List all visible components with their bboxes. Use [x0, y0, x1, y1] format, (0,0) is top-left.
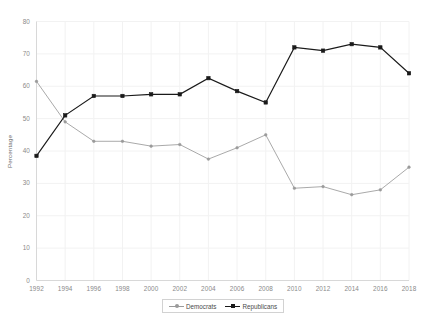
series-line-republicans: [37, 44, 410, 156]
data-point-republicans-1998: [121, 94, 124, 97]
chart-container: Percentage 01020304050607080 19921994199…: [0, 0, 421, 325]
data-point-republicans-2018: [407, 72, 410, 75]
data-point-democrats-1994: [64, 121, 67, 124]
data-point-democrats-2014: [350, 193, 353, 196]
data-point-democrats-2002: [178, 143, 181, 146]
legend-swatch-icon: [225, 303, 240, 309]
data-point-republicans-2004: [207, 76, 210, 79]
data-point-democrats-2010: [293, 187, 296, 190]
data-point-republicans-2014: [350, 42, 353, 45]
y-tick-label: 20: [8, 212, 30, 219]
data-point-democrats-2008: [264, 133, 267, 136]
data-point-republicans-2008: [264, 101, 267, 104]
y-tick-label: 40: [8, 147, 30, 154]
chart-legend: DemocratsRepublicans: [162, 299, 284, 313]
data-point-democrats-1996: [92, 140, 95, 143]
data-point-democrats-2004: [207, 158, 210, 161]
data-point-democrats-2000: [150, 145, 153, 148]
data-point-republicans-1994: [63, 114, 66, 117]
chart-plot-area: [0, 0, 421, 325]
data-point-democrats-2018: [408, 166, 411, 169]
legend-label: Republicans: [242, 303, 277, 310]
y-tick-label: 50: [8, 115, 30, 122]
data-point-republicans-2012: [321, 49, 324, 52]
x-tick-label: 2018: [392, 285, 421, 292]
data-point-democrats-1998: [121, 140, 124, 143]
data-point-democrats-2016: [379, 189, 382, 192]
y-tick-label: 80: [8, 18, 30, 25]
data-point-republicans-2006: [235, 89, 238, 92]
data-point-republicans-1992: [35, 154, 38, 157]
data-point-republicans-2002: [178, 93, 181, 96]
data-point-republicans-2000: [149, 93, 152, 96]
legend-label: Democrats: [186, 303, 216, 310]
legend-item-democrats[interactable]: Democrats: [169, 303, 216, 310]
data-point-republicans-2010: [293, 46, 296, 49]
y-tick-label: 60: [8, 82, 30, 89]
data-point-democrats-2012: [322, 185, 325, 188]
legend-item-republicans[interactable]: Republicans: [225, 303, 277, 310]
data-point-democrats-1992: [35, 80, 38, 83]
data-point-republicans-1996: [92, 94, 95, 97]
y-tick-label: 70: [8, 50, 30, 57]
legend-swatch-icon: [169, 303, 184, 309]
y-tick-label: 10: [8, 244, 30, 251]
data-point-republicans-2016: [379, 46, 382, 49]
data-point-democrats-2006: [236, 146, 239, 149]
y-tick-label: 0: [8, 277, 30, 284]
series-line-democrats: [37, 81, 410, 194]
y-tick-label: 30: [8, 179, 30, 186]
